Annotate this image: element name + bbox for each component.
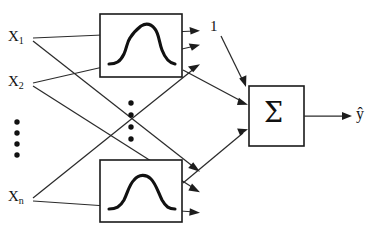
input-label-x2: X2 <box>8 74 24 89</box>
output-label-yhat: ŷ <box>356 106 364 122</box>
bias-label: 1 <box>210 19 218 34</box>
arrow-head-icon <box>188 64 200 72</box>
arrow-head-icon <box>239 75 246 87</box>
arrow-head-icon <box>189 44 200 51</box>
arrow-head-icon <box>237 129 248 136</box>
summation-symbol: Σ <box>264 99 283 126</box>
diagram-canvas <box>0 0 377 229</box>
rbf-unit-box-bottom <box>100 160 182 222</box>
rbf-network-diagram: X1 X2 Xn 1 Σ ŷ <box>0 0 377 229</box>
arrow-head-icon <box>237 98 248 105</box>
edge-sum-to-output <box>304 112 352 120</box>
rbf-unit-box-top <box>100 14 182 77</box>
edge-rbf-top-to-sum <box>183 70 248 105</box>
arrow-head-icon <box>190 27 201 34</box>
arrow-head-icon <box>188 184 200 193</box>
edge-bias-to-sum <box>221 36 246 87</box>
arrow-head-icon <box>342 112 352 120</box>
input-label-xn-subscript: n <box>19 195 24 206</box>
input-label-x1-base: X <box>8 28 19 44</box>
input-layer-ellipsis-dots <box>14 119 19 157</box>
input-label-xn-base: X <box>8 188 19 204</box>
input-label-x2-base: X <box>8 73 19 89</box>
input-label-xn: Xn <box>8 189 24 204</box>
input-label-x2-subscript: 2 <box>19 80 24 91</box>
arrow-head-icon <box>189 208 200 216</box>
edge-rbf-bottom-to-sum <box>183 129 248 184</box>
input-label-x1: X1 <box>8 29 24 44</box>
input-label-x1-subscript: 1 <box>19 35 24 46</box>
